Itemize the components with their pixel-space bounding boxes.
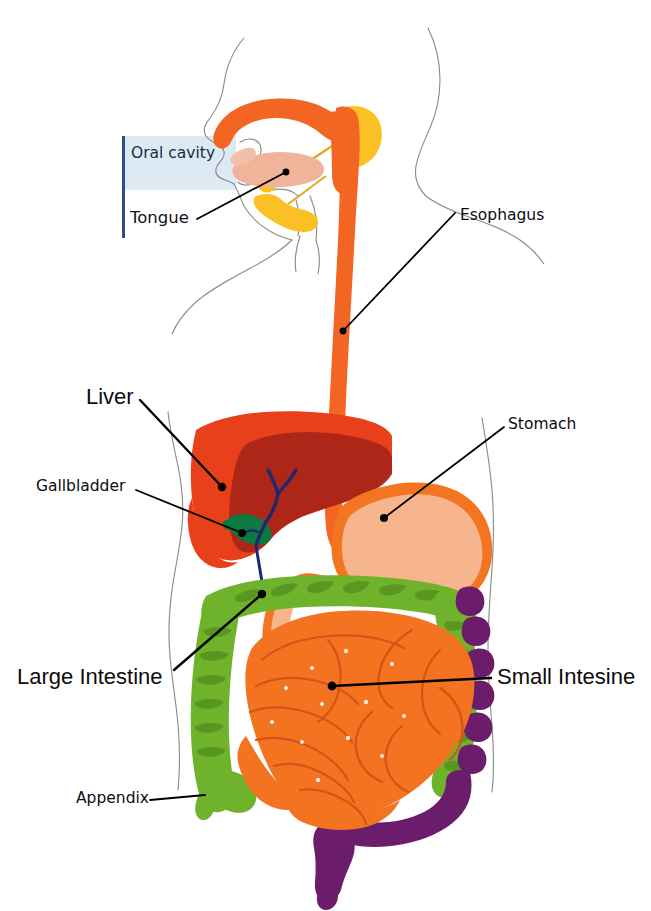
small-intestine — [237, 611, 474, 831]
anatomy-illustration — [0, 0, 651, 911]
dot-liver — [218, 483, 226, 491]
label-large-intestine: Large Intestine — [17, 666, 163, 688]
tongue — [230, 148, 324, 187]
dot-esophagus — [340, 328, 347, 335]
dot-small-intestine — [328, 682, 337, 691]
digestive-system-diagram: Oral cavity Tongue Esophagus Liver Stoma… — [0, 0, 651, 911]
dot-large-intestine — [258, 590, 266, 598]
label-small-intestine: Small Intesine — [497, 666, 635, 688]
label-appendix: Appendix — [76, 791, 149, 807]
dot-tongue — [283, 169, 290, 176]
dot-stomach — [380, 514, 388, 522]
label-gallbladder: Gallbladder — [36, 479, 125, 495]
leader-esophagus — [343, 213, 455, 331]
label-stomach: Stomach — [508, 417, 576, 433]
leader-appendix — [150, 795, 205, 800]
dot-gallbladder — [238, 529, 246, 537]
label-esophagus: Esophagus — [460, 208, 544, 224]
label-tongue: Tongue — [130, 210, 189, 227]
label-liver: Liver — [86, 386, 134, 408]
label-oral-cavity: Oral cavity — [131, 146, 215, 162]
